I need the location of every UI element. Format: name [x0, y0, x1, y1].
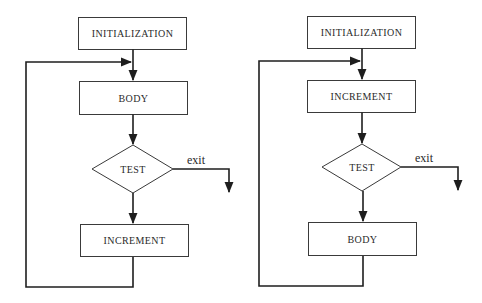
right-init-node: INITIALIZATION	[308, 17, 416, 49]
left-second-node: INCREMENT	[81, 225, 189, 257]
left-exit-arrow	[173, 169, 229, 192]
right-second-node: BODY	[309, 223, 417, 256]
right-first-node: INCREMENT	[308, 81, 416, 113]
right-second-label: BODY	[348, 234, 378, 245]
left-test-node: TEST	[92, 145, 173, 193]
left-flowchart: INITIALIZATION BODY TEST exit INCREMENT	[26, 18, 229, 288]
right-first-label: INCREMENT	[331, 91, 393, 102]
right-exit-label: exit	[415, 151, 434, 165]
right-flowchart: INITIALIZATION INCREMENT TEST exit BODY	[259, 17, 458, 287]
right-init-label: INITIALIZATION	[321, 27, 403, 38]
flowcharts: INITIALIZATION BODY TEST exit INCREMENT	[0, 0, 482, 303]
left-second-label: INCREMENT	[104, 235, 166, 246]
left-init-label: INITIALIZATION	[92, 28, 174, 39]
right-test-label: TEST	[349, 162, 375, 173]
left-init-node: INITIALIZATION	[79, 18, 187, 50]
left-exit-label: exit	[187, 153, 206, 167]
left-first-label: BODY	[119, 93, 149, 104]
right-exit-arrow	[401, 167, 458, 190]
right-test-node: TEST	[322, 144, 401, 191]
left-test-label: TEST	[120, 164, 146, 175]
left-first-node: BODY	[80, 82, 188, 115]
